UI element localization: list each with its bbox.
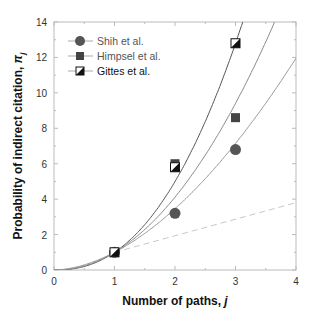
y-tick-label: 0	[41, 265, 47, 276]
x-tick-labels: 0 1 2 3 4	[51, 276, 299, 287]
legend-label: Gittes et al.	[97, 65, 150, 77]
x-tick-label: 1	[112, 276, 118, 287]
data-point-half-square	[110, 248, 119, 257]
y-axis-title: Probability of indirect citation, πj	[11, 52, 27, 240]
square-marker-icon	[76, 52, 84, 60]
data-point-square	[231, 113, 240, 122]
data-point-circle	[170, 208, 181, 219]
x-tick-label: 4	[293, 276, 299, 287]
x-tick-label: 0	[51, 276, 57, 287]
y-tick-label: 10	[36, 88, 48, 99]
x-tick-label: 2	[172, 276, 178, 287]
legend-item-shih: Shih et al.	[68, 35, 144, 47]
y-tick-label: 6	[41, 159, 47, 170]
x-axis-title: Number of paths, j	[122, 294, 228, 308]
legend: Shih et al. Himpsel et al. Gittes et al.	[68, 35, 161, 77]
x-tick-label: 3	[233, 276, 239, 287]
y-tick-label: 14	[36, 17, 48, 28]
y-tick-label: 8	[41, 123, 47, 134]
y-tick-labels: 0 2 4 6 8 10 12 14	[36, 17, 48, 276]
legend-label: Shih et al.	[97, 35, 144, 47]
data-point-half-square	[231, 39, 240, 48]
plot-frame	[54, 22, 296, 270]
legend-item-himpsel: Himpsel et al.	[68, 50, 161, 62]
axis-ticks	[54, 22, 296, 270]
chart: 0 1 2 3 4 0 2 4 6 8 10 12 14 Shih et al.…	[0, 0, 311, 317]
data-point-circle	[230, 144, 241, 155]
y-tick-label: 2	[41, 230, 47, 241]
circle-marker-icon	[75, 36, 85, 46]
data-point-half-square	[171, 163, 180, 172]
y-tick-label: 12	[36, 52, 48, 63]
legend-item-gittes: Gittes et al.	[68, 65, 150, 77]
legend-label: Himpsel et al.	[97, 50, 161, 62]
y-tick-label: 4	[41, 194, 47, 205]
